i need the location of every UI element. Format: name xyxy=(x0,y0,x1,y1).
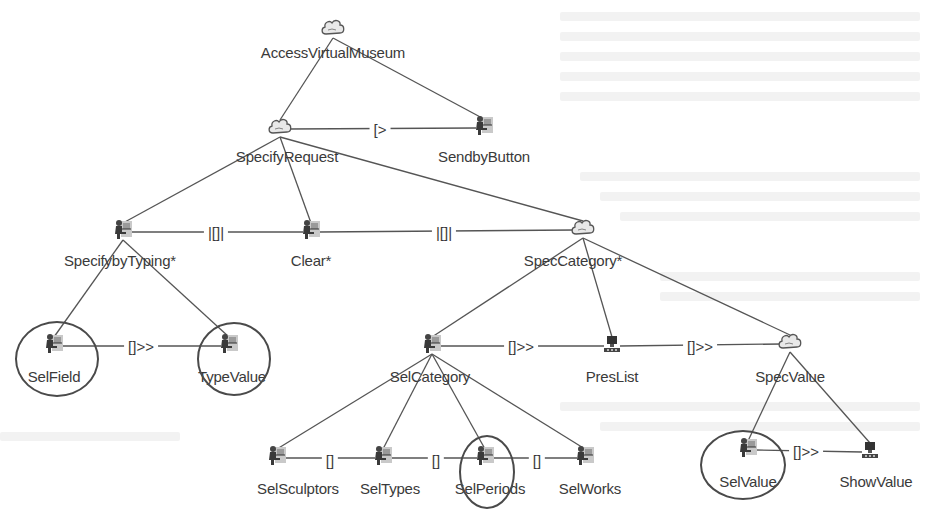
task-label-sendby: SendbyButton xyxy=(438,148,530,165)
temporal-operator: |[]| xyxy=(432,224,456,241)
task-label-typing: SpecifybyTyping* xyxy=(64,252,176,269)
task-label-selworks: SelWorks xyxy=(559,480,621,497)
highlight-circle-selfield xyxy=(15,321,99,397)
task-label-selcat: SelCategory xyxy=(390,368,470,385)
user-interaction-icon xyxy=(474,114,494,142)
cloud-icon xyxy=(267,117,293,141)
temporal-operator: [] xyxy=(428,452,444,469)
user-interaction-icon xyxy=(575,444,595,472)
user-interaction-icon xyxy=(267,444,287,472)
task-label-speccat: SpecCategory* xyxy=(524,252,622,269)
highlight-circle-selvalue xyxy=(700,430,786,500)
computer-icon xyxy=(602,334,622,358)
temporal-operator: []>> xyxy=(789,443,823,460)
user-interaction-icon xyxy=(422,332,442,360)
highlight-circle-selperiods xyxy=(459,435,515,509)
task-label-selsculptors: SelSculptors xyxy=(257,480,339,497)
task-label-access: AccessVirtualMuseum xyxy=(261,44,405,61)
temporal-operator: |[]| xyxy=(204,224,228,241)
task-label-clear: Clear* xyxy=(291,252,331,269)
temporal-operator: []>> xyxy=(683,338,717,355)
temporal-operator: []>> xyxy=(504,338,538,355)
user-interaction-icon xyxy=(113,218,133,246)
task-label-showvalue: ShowValue xyxy=(840,473,913,490)
temporal-operator: [] xyxy=(529,452,545,469)
temporal-operator: []>> xyxy=(124,338,158,355)
task-label-seltypes: SelTypes xyxy=(360,480,420,497)
cloud-icon xyxy=(320,18,346,42)
user-interaction-icon xyxy=(301,218,321,246)
task-label-specvalue: SpecValue xyxy=(755,368,825,385)
cloud-icon xyxy=(777,332,803,356)
task-label-preslist: PresList xyxy=(586,368,639,385)
highlight-circle-typevalue xyxy=(197,322,271,396)
temporal-operator: [> xyxy=(370,121,391,138)
user-interaction-icon xyxy=(373,444,393,472)
task-label-specreq: SpecifyRequest xyxy=(236,148,338,165)
cloud-icon xyxy=(570,218,596,242)
temporal-operator: [] xyxy=(322,452,338,469)
computer-icon xyxy=(860,440,880,464)
